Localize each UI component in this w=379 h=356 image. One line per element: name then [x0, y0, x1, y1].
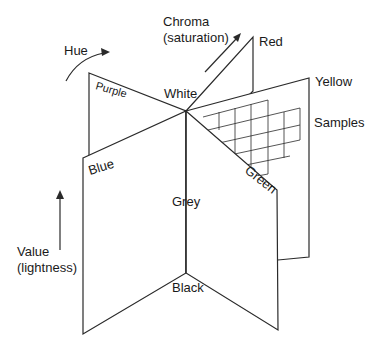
value-arrow-icon	[56, 190, 64, 250]
chroma-sublabel: (saturation)	[163, 30, 229, 45]
value-sublabel: (lightness)	[17, 260, 77, 275]
white-label: White	[164, 86, 197, 101]
yellow-label: Yellow	[315, 74, 353, 89]
munsell-diagram: Hue Chroma (saturation) Red Yellow Sampl…	[0, 0, 379, 356]
value-label: Value	[17, 244, 49, 259]
chroma-label: Chroma	[163, 14, 210, 29]
black-label: Black	[172, 280, 204, 295]
grey-label: Grey	[172, 194, 201, 209]
red-label: Red	[259, 34, 283, 49]
samples-label: Samples	[314, 115, 365, 130]
hue-label: Hue	[64, 43, 88, 58]
